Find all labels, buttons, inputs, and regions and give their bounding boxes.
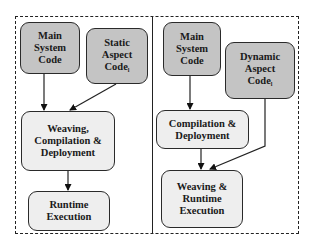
box-label: Main [180, 31, 204, 42]
box-label: System [176, 43, 208, 54]
right-main-system-code-box: Main System Code [163, 22, 221, 76]
subscript: l [271, 81, 273, 87]
box-label: Aspect [102, 49, 132, 60]
compilation-deployment-box: Compilation & Deployment [156, 110, 249, 149]
dynamic-aspect-code-box: Dynamic Aspect Codel [225, 42, 295, 99]
left-main-system-code-box: Main System Code [20, 22, 80, 74]
box-label: Static [104, 37, 130, 48]
box-label: Execution [180, 205, 225, 216]
left-runtime-execution-box: Runtime Execution [28, 191, 110, 231]
box-label: Code [247, 75, 270, 86]
box-label: Code [104, 61, 127, 72]
box-label: Dynamic [240, 51, 280, 62]
static-aspect-code-box: Static Aspect Codel [86, 28, 148, 84]
box-label: Code [180, 55, 203, 66]
subscript: l [128, 67, 130, 73]
box-label: Runtime [49, 199, 88, 210]
box-label: Weaving, [47, 123, 89, 134]
box-label: Compilation & [169, 118, 236, 129]
box-label: System [34, 42, 66, 53]
box-label: Deployment [175, 130, 229, 141]
box-label: Code [38, 54, 61, 65]
box-label: Main [38, 30, 62, 41]
weaving-compilation-deployment-box: Weaving, Compilation & Deployment [21, 111, 115, 171]
panel-divider [152, 16, 153, 234]
box-label: Runtime [182, 193, 221, 204]
box-label: Deployment [41, 147, 95, 158]
box-label: Aspect [245, 63, 275, 74]
box-label: Compilation & [34, 135, 101, 146]
box-label: Execution [47, 211, 92, 222]
box-label: Weaving & [177, 181, 227, 192]
weaving-runtime-execution-box: Weaving & Runtime Execution [161, 170, 243, 228]
